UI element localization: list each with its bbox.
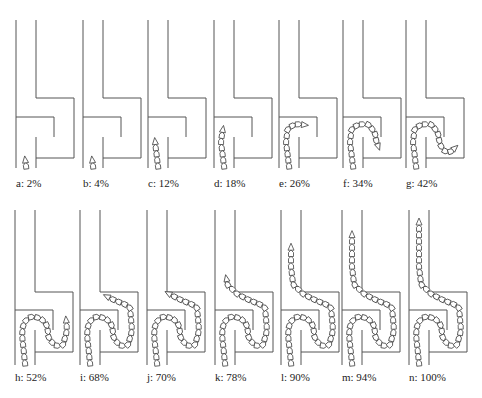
segment-chain	[284, 122, 309, 170]
segment-chain	[348, 121, 383, 169]
maze-right-wall	[36, 20, 74, 158]
panel-label: k: 78%	[215, 371, 246, 383]
chain-segment	[288, 359, 294, 366]
panel-label: l: 90%	[281, 371, 310, 383]
chain-segment	[347, 340, 353, 347]
maze-panel-j: j: 70%	[146, 210, 205, 383]
chain-segment	[86, 347, 92, 354]
chain-segment	[221, 347, 227, 354]
segment-chain	[85, 292, 135, 366]
chain-segment	[196, 323, 201, 330]
chain-segment	[349, 359, 355, 366]
chain-segment	[295, 122, 302, 127]
chain-segment	[264, 323, 269, 330]
chain-segment	[289, 269, 295, 276]
chain-segment	[152, 340, 158, 347]
chain-segment	[152, 334, 157, 341]
chain-segment	[458, 323, 463, 330]
chain-segment	[195, 316, 201, 323]
chain-segment	[85, 340, 91, 347]
chain-segment	[417, 225, 422, 232]
chain-head-arrow	[89, 156, 96, 164]
maze-panel-c: c: 12%	[148, 20, 206, 189]
maze-right-wall	[234, 20, 272, 158]
chain-segment	[286, 334, 291, 341]
chain-segment	[391, 323, 396, 330]
chain-segment	[330, 323, 335, 330]
chain-head-arrow	[349, 231, 355, 238]
chain-segment	[417, 269, 423, 276]
chain-segment	[289, 250, 294, 257]
maze-panel-m: m: 94%	[342, 210, 400, 383]
chain-segment	[129, 323, 134, 330]
chain-segment	[20, 340, 26, 347]
maze-panel-i: i: 68%	[80, 210, 138, 383]
chain-segment	[414, 334, 419, 341]
chain-segment	[289, 256, 294, 263]
chain-segment	[22, 359, 28, 366]
chain-segment	[220, 340, 226, 347]
chain-segment	[350, 256, 355, 263]
chain-segment	[220, 334, 225, 341]
maze-right-wall	[426, 20, 464, 158]
chain-segment	[222, 359, 228, 366]
panel-label: j: 70%	[146, 371, 176, 383]
maze-panel-l: l: 90%	[281, 210, 339, 383]
chain-segment	[21, 347, 27, 354]
chain-segment	[350, 237, 355, 244]
chain-segment	[286, 340, 292, 347]
maze-panel-e: e: 26%	[279, 20, 337, 189]
chain-segment	[87, 359, 93, 366]
chain-segment	[417, 250, 422, 257]
chain-head-arrow	[374, 143, 382, 152]
chain-head-arrow	[301, 122, 309, 129]
segment-chain	[152, 289, 202, 366]
maze-right-wall	[363, 20, 401, 158]
chain-head-arrow	[152, 137, 159, 145]
maze-right-wall	[103, 20, 141, 158]
chain-segment	[20, 334, 25, 341]
maze-panel-n: n: 100%	[409, 210, 467, 383]
panel-label: g: 42%	[406, 177, 437, 189]
chain-segment	[415, 347, 421, 354]
chain-segment	[64, 323, 69, 330]
panel-label: f: 34%	[343, 177, 373, 189]
chain-segment	[350, 244, 355, 251]
maze-shelf-wall	[148, 117, 186, 137]
chain-segment	[414, 340, 420, 347]
panel-label: a: 2%	[16, 177, 41, 189]
chain-segment	[350, 250, 355, 257]
chain-segment	[411, 144, 417, 151]
segment-chain	[89, 156, 96, 170]
segment-chain	[219, 125, 227, 169]
maze-panel-d: d: 18%	[214, 20, 272, 189]
maze-panel-a: a: 2%	[16, 20, 74, 189]
chain-segment	[348, 347, 354, 354]
maze-right-wall	[168, 20, 206, 158]
panel-label: e: 26%	[279, 177, 310, 189]
segment-chain	[411, 121, 460, 169]
segment-chain	[22, 156, 29, 170]
chain-segment	[154, 359, 160, 366]
chain-segment	[349, 262, 354, 269]
chain-segment	[329, 316, 335, 323]
chain-segment	[347, 334, 352, 341]
maze-progress-figure: a: 2%b: 4%c: 12%d: 18%e: 26%f: 34%g: 42%…	[0, 0, 482, 398]
panel-label: c: 12%	[148, 177, 179, 189]
chain-segment	[417, 244, 422, 251]
segment-chain	[20, 314, 70, 366]
panel-label: b: 4%	[83, 177, 109, 189]
chain-segment	[348, 144, 354, 151]
chain-segment	[219, 144, 225, 151]
segment-chain	[347, 231, 397, 367]
chain-segment	[416, 359, 422, 366]
segment-chain	[286, 243, 336, 366]
chain-head-arrow	[219, 125, 226, 133]
chain-head-arrow	[223, 274, 230, 282]
chain-segment	[417, 237, 422, 244]
panel-label: n: 100%	[409, 371, 446, 383]
maze-panel-g: g: 42%	[406, 20, 464, 189]
chain-segment	[417, 256, 422, 263]
chain-segment	[263, 316, 269, 323]
panel-label: d: 18%	[214, 177, 245, 189]
